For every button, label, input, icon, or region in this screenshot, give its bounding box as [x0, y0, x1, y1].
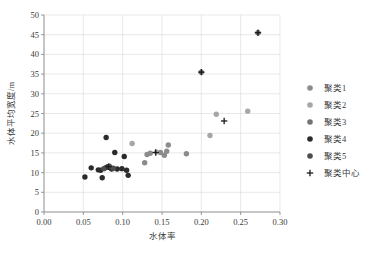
legend-item-label: 聚类2: [324, 100, 346, 110]
data-point: [112, 150, 117, 155]
x-tick-label: 0.20: [194, 217, 209, 227]
y-tick-label: 40: [31, 49, 40, 59]
y-tick-label: 0: [35, 207, 39, 217]
data-point: [82, 174, 87, 179]
x-tick-label: 0.05: [76, 217, 91, 227]
legend-marker-circle: [307, 153, 313, 159]
legend-item-label: 聚类中心: [324, 168, 360, 178]
data-point: [103, 135, 108, 140]
legend-item-label: 聚类3: [324, 117, 346, 127]
x-tick-label: 0.30: [273, 217, 288, 227]
scatter-chart: 051015202530354045500.000.050.100.150.20…: [0, 0, 377, 257]
y-tick-label: 15: [31, 148, 40, 158]
y-tick-label: 20: [31, 128, 40, 138]
data-point: [125, 173, 130, 178]
legend-marker-circle: [307, 85, 313, 91]
legend-item-label: 聚类4: [324, 134, 347, 144]
data-point: [164, 149, 169, 154]
legend-item-label: 聚类5: [324, 151, 346, 161]
data-point: [142, 160, 147, 165]
data-point: [119, 166, 124, 171]
y-tick-label: 25: [31, 109, 40, 119]
data-point: [122, 154, 127, 159]
data-point: [207, 133, 212, 138]
data-point: [89, 165, 94, 170]
data-point: [129, 141, 134, 146]
y-tick-label: 35: [31, 69, 40, 79]
y-tick-label: 45: [31, 30, 40, 40]
data-point: [100, 175, 105, 180]
legend-item-label: 聚类1: [324, 83, 346, 93]
chart-canvas: 051015202530354045500.000.050.100.150.20…: [0, 0, 377, 257]
x-axis-title: 水体率: [149, 231, 176, 241]
data-point: [166, 142, 171, 147]
data-point: [184, 151, 189, 156]
x-tick-label: 0.15: [155, 217, 170, 227]
data-point: [148, 151, 153, 156]
legend-marker-circle: [307, 136, 313, 142]
legend-marker-circle: [307, 102, 313, 108]
data-point: [245, 108, 250, 113]
y-tick-label: 10: [31, 168, 40, 178]
data-point: [214, 112, 219, 117]
y-axis-title: 水体平均宽度/m: [6, 82, 16, 145]
data-point: [124, 168, 129, 173]
x-tick-label: 0.25: [233, 217, 248, 227]
y-tick-label: 30: [31, 89, 40, 99]
y-tick-label: 5: [35, 187, 39, 197]
x-tick-label: 0.00: [37, 217, 52, 227]
legend-marker-circle: [307, 119, 313, 125]
y-tick-label: 50: [31, 10, 40, 20]
x-tick-label: 0.10: [115, 217, 130, 227]
